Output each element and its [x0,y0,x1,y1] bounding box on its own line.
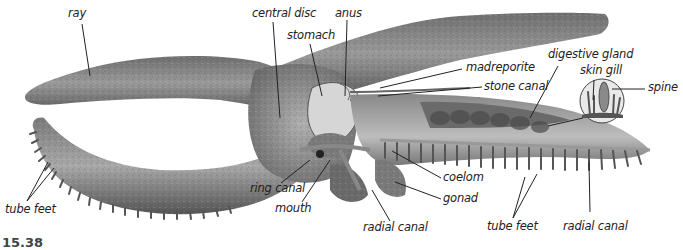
label-anus: anus [335,8,362,20]
label-stone-canal: stone canal [484,81,548,93]
figure-number: 15.38 [2,236,43,249]
label-ring-canal: ring canal [250,183,305,195]
label-coelom: coelom [443,172,484,184]
label-central-disc: central disc [252,8,316,20]
skin-gill-inset [580,79,624,123]
label-digestive-gland: digestive gland [548,49,633,61]
label-ray: ray [68,8,86,20]
label-mouth: mouth [275,203,311,215]
label-radial-canal-right: radial canal [563,221,628,233]
label-tube-feet-right: tube feet [487,221,538,233]
label-tube-feet-left: tube feet [5,204,56,216]
label-stomach: stomach [287,30,335,42]
mouth-opening [316,150,324,158]
gonads [330,160,406,202]
label-radial-canal-center: radial canal [363,222,428,234]
label-madreporite: madreporite [466,62,535,74]
label-gonad: gonad [443,193,478,205]
label-spine: spine [648,82,678,94]
label-skin-gill: skin gill [580,65,622,77]
